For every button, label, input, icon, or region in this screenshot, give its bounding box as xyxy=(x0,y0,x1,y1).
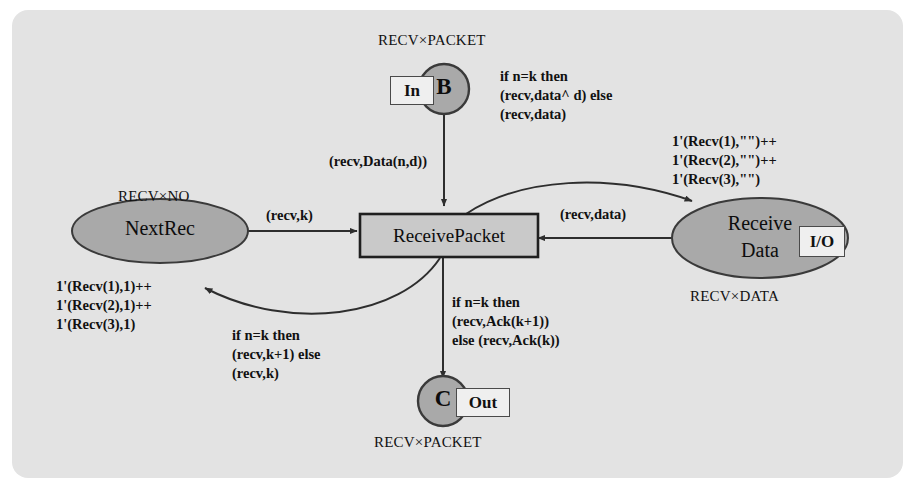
arc-inscription-receivepacket-to-receivedata-l3: (recv,data) xyxy=(500,106,566,122)
diagram-canvas: RECV×PACKET In B if n=k then (recv,data^… xyxy=(0,0,915,488)
place-c-type-label: RECV×PACKET xyxy=(374,434,482,451)
place-receivedata-type-label: RECV×DATA xyxy=(690,288,779,305)
arc-inscription-receivepacket-to-c-l1: if n=k then xyxy=(452,294,520,310)
place-nextrec-marking-l1: 1'(Recv(1),1)++ xyxy=(56,278,152,294)
place-nextrec-type-label: RECV×NO xyxy=(118,188,190,205)
arc-inscription-receivepacket-to-c-l3: else (recv,Ack(k)) xyxy=(452,332,560,348)
place-receivedata-io-tag[interactable]: I/O xyxy=(799,226,845,257)
arc-inscription-receivepacket-to-nextrec-l3: (recv,k) xyxy=(232,365,279,381)
place-c-port-tag[interactable]: Out xyxy=(456,388,510,417)
arc-inscription-b-to-receivepacket: (recv,Data(n,d)) xyxy=(329,153,427,169)
place-nextrec-marking-l2: 1'(Recv(2),1)++ xyxy=(56,297,152,313)
place-receivedata-marking-l1: 1'(Recv(1),"")++ xyxy=(672,133,777,149)
arc-inscription-receivepacket-to-c-l2: (recv,Ack(k+1)) xyxy=(452,313,549,329)
transition-receivepacket-name: ReceivePacket xyxy=(360,225,538,247)
arc-receivepacket-to-nextrec xyxy=(205,258,440,314)
place-nextrec-marking-l3: 1'(Recv(3),1) xyxy=(56,316,135,332)
arc-inscription-receivepacket-to-nextrec-l2: (recv,k+1) else xyxy=(232,346,321,362)
arc-inscription-receivepacket-to-receivedata-l2: (recv,data^ d) else xyxy=(500,87,612,103)
arc-inscription-receivedata-to-receivepacket: (recv,data) xyxy=(560,206,626,222)
arc-inscription-receivepacket-to-receivedata-l1: if n=k then xyxy=(500,68,568,84)
place-nextrec-name: NextRec xyxy=(100,218,220,239)
place-receivedata-marking-l3: 1'(Recv(3),"") xyxy=(672,171,760,187)
place-receivedata-marking-l2: 1'(Recv(2),"")++ xyxy=(672,152,777,168)
arc-inscription-nextrec-to-receivepacket: (recv,k) xyxy=(266,207,313,223)
place-b-name: B xyxy=(424,75,464,99)
place-b-type-label: RECV×PACKET xyxy=(378,32,486,49)
arc-inscription-receivepacket-to-nextrec-l1: if n=k then xyxy=(232,327,300,343)
